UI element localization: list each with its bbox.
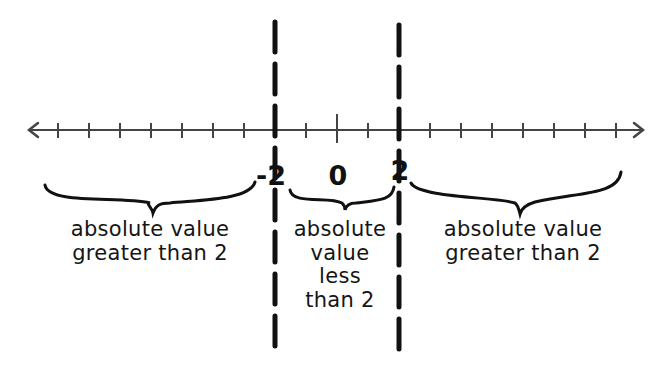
number-line-diagram: -2 0 2 absolute value greater than 2 abs… [0, 0, 664, 373]
region-right-text: absolute value greater than 2 [408, 218, 638, 265]
tick-marks [58, 114, 616, 143]
right-region-brace [411, 172, 621, 214]
region-middle-text: absolute value less than 2 [282, 218, 398, 312]
label-neg2: -2 [256, 160, 286, 191]
left-region-brace [45, 182, 255, 213]
region-left-text: absolute value greater than 2 [30, 218, 270, 265]
label-0: 0 [329, 160, 348, 191]
label-pos2: 2 [391, 155, 410, 186]
